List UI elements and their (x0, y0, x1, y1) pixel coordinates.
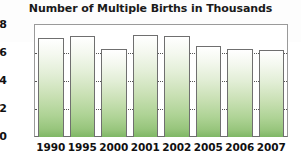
bar-2007[interactable] (259, 50, 285, 137)
bar-1990[interactable] (38, 38, 64, 137)
bar-slot (130, 50, 162, 137)
x-axis-tick-labels: 1990 1995 2000 2001 2002 2005 2006 2007 (35, 141, 287, 161)
x-axis-tick-label-1990: 1990 (35, 141, 67, 153)
bar-slot (67, 35, 99, 137)
bar-slot (98, 46, 130, 137)
x-axis-tick-label-2007: 2007 (256, 141, 288, 153)
bar-2002[interactable] (164, 36, 190, 137)
x-axis-tick-label-1995: 1995 (67, 141, 99, 153)
x-axis-tick-label-2002: 2002 (161, 141, 193, 153)
bar-chart: Number of Multiple Births in Thousands 8… (0, 0, 301, 42)
y-axis-tick-label: 6 (0, 47, 7, 58)
bar-slot (161, 25, 193, 137)
y-axis-tick-label: 4 (0, 75, 7, 86)
chart-title: Number of Multiple Births in Thousands (0, 2, 301, 15)
bar-slot (35, 70, 67, 137)
x-axis-tick-label-2005: 2005 (193, 141, 225, 153)
bar-slot (224, 25, 256, 137)
y-axis-tick-label: 8 (0, 19, 7, 30)
x-axis-tick-label-2000: 2000 (98, 141, 130, 153)
x-axis-tick-label-2001: 2001 (130, 141, 162, 153)
y-axis-tick-label: 2 (0, 103, 7, 114)
bar-slot (256, 25, 288, 137)
y-axis-tick-label: 0 (0, 131, 7, 142)
bar-1995[interactable] (70, 36, 96, 137)
bar-2001[interactable] (133, 35, 159, 137)
bars-layer (35, 25, 287, 137)
bar-2000[interactable] (101, 49, 127, 137)
bar-2006[interactable] (227, 49, 253, 137)
bar-2005[interactable] (196, 46, 222, 137)
x-axis-tick-label-2006: 2006 (224, 141, 256, 153)
bar-slot (193, 25, 225, 137)
